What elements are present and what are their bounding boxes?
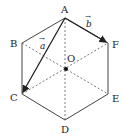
vertex-label-a: A [60, 4, 69, 15]
vector-b-label: b [86, 19, 92, 29]
vertex-label-f: F [112, 39, 119, 50]
center-point [64, 67, 68, 71]
hexagon-diagram: A B C D E F O → a → b [0, 0, 124, 139]
center-label-o: O [67, 53, 75, 64]
vertex-label-b: B [10, 38, 17, 49]
vector-a-label: a [40, 41, 45, 51]
vertex-label-c: C [10, 92, 18, 103]
vertex-label-e: E [112, 93, 119, 104]
vertex-label-d: D [61, 124, 69, 135]
